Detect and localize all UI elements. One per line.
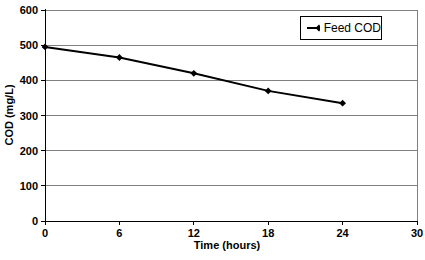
x-axis-title: Time (hours) <box>194 239 260 251</box>
x-tick-label: 24 <box>336 227 349 239</box>
legend-line-marker-icon <box>306 23 320 33</box>
x-tick-label: 30 <box>411 227 423 239</box>
data-point-marker <box>265 87 272 94</box>
data-point-marker <box>190 70 197 77</box>
y-tick-label: 600 <box>20 4 38 16</box>
y-tick-label: 200 <box>20 145 38 157</box>
data-point-marker <box>339 100 346 107</box>
data-point-marker <box>116 54 123 61</box>
y-axis-title: COD (mg/L) <box>3 84 15 145</box>
y-tick-label: 100 <box>20 180 38 192</box>
data-point-marker <box>42 44 49 51</box>
x-tick-label: 0 <box>42 227 48 239</box>
legend: Feed COD <box>300 16 382 40</box>
x-tick-label: 12 <box>188 227 200 239</box>
x-tick-label: 6 <box>116 227 122 239</box>
y-tick-label: 300 <box>20 110 38 122</box>
x-tick-label: 18 <box>262 227 274 239</box>
chart-container: 01002003004005006000612182430 COD (mg/L)… <box>0 0 425 260</box>
legend-label: Feed COD <box>324 21 381 35</box>
y-tick-label: 500 <box>20 39 38 51</box>
y-tick-label: 0 <box>32 215 38 227</box>
y-tick-label: 400 <box>20 74 38 86</box>
